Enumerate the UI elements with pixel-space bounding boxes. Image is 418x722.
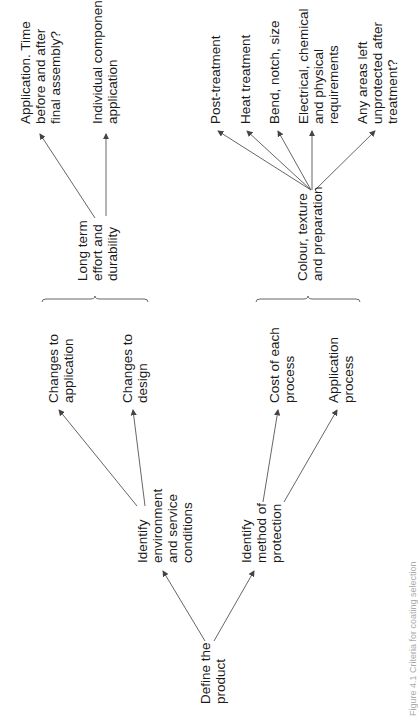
node-changes-design: Changes to design — [120, 334, 150, 403]
node-text: process — [282, 327, 297, 403]
node-text: Long term — [75, 220, 90, 281]
node-text: Define the — [198, 642, 213, 704]
node-text: conditions — [180, 489, 195, 563]
node-post-treatment: Post-treatment — [208, 35, 223, 124]
node-define-product: Define the product — [198, 642, 228, 704]
node-text: process — [341, 337, 356, 403]
node-text: Any areas left — [355, 22, 370, 124]
node-text: Colour, texture — [295, 186, 310, 281]
node-text: treatment? — [385, 22, 400, 124]
node-text: application — [105, 0, 120, 124]
node-heat-treatment: Heat treatment — [238, 35, 253, 124]
node-colour-texture: Colour, texture and preparation — [295, 186, 325, 281]
node-text: product — [213, 642, 228, 704]
node-text: Application — [326, 337, 341, 403]
braces — [42, 296, 360, 302]
node-electrical-chemical: Electrical, chemical and physical requir… — [296, 8, 341, 124]
node-text: protection — [269, 503, 284, 563]
node-long-term-durability: Long term effort and durability — [75, 220, 120, 281]
node-text: before and after — [33, 21, 48, 124]
node-text: requirements — [326, 8, 341, 124]
node-text: environment — [150, 489, 165, 563]
node-text: Application. Time — [18, 21, 33, 124]
node-bend-notch-size: Bend, notch, size — [267, 20, 282, 124]
node-text: effort and — [90, 220, 105, 281]
node-text: Heat treatment — [238, 35, 253, 124]
node-text: Changes to — [46, 334, 61, 403]
node-text: Electrical, chemical — [296, 8, 311, 124]
node-cost-each-process: Cost of each process — [267, 327, 297, 403]
node-text: application — [61, 334, 76, 403]
figure-caption: Figure 4.1 Criteria for coating selectio… — [408, 561, 418, 716]
node-text: and service — [165, 489, 180, 563]
node-text: Cost of each — [267, 327, 282, 403]
node-identify-environment: Identify environment and service conditi… — [135, 489, 195, 563]
node-text: Changes to — [120, 334, 135, 403]
node-text: Individual component — [90, 0, 105, 124]
node-identify-method: Identify method of protection — [239, 503, 284, 563]
node-application-process: Application process — [326, 337, 356, 403]
node-text: durability — [105, 220, 120, 281]
node-text: Post-treatment — [208, 35, 223, 124]
node-changes-application: Changes to application — [46, 334, 76, 403]
node-text: Identify — [135, 489, 150, 563]
node-text: unprotected after — [370, 22, 385, 124]
node-text: and preparation — [310, 186, 325, 281]
node-application-time: Application. Time before and after final… — [18, 21, 63, 124]
node-individual-component: Individual component application — [90, 0, 120, 124]
node-text: Identify — [239, 503, 254, 563]
node-text: design — [135, 334, 150, 403]
node-text: final assembly? — [48, 21, 63, 124]
node-text: Bend, notch, size — [267, 20, 282, 124]
node-text: and physical — [311, 8, 326, 124]
node-text: method of — [254, 503, 269, 563]
node-unprotected-areas: Any areas left unprotected after treatme… — [355, 22, 400, 124]
